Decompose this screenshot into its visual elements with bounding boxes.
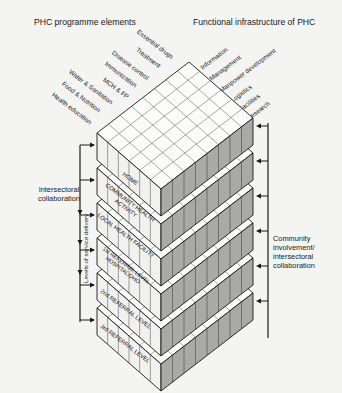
community-involvement-label: Community involvement/ intersectoral col…: [273, 234, 341, 270]
intersectoral-collaboration-label: Intersectoral collaboration: [29, 185, 89, 203]
right-bracket: [256, 123, 268, 338]
phc-diagram: PHC programme elements Functional infras…: [0, 0, 342, 393]
levels-of-service-delivery-label: Levels of service delivery: [82, 214, 89, 283]
